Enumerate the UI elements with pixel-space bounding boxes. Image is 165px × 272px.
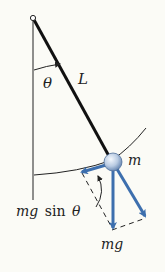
theta-angle-arc (34, 64, 60, 70)
dashed-component-line (112, 218, 146, 230)
pivot-icon (30, 15, 35, 20)
pendulum-diagram: θ L m mg mg sin θ (0, 0, 165, 272)
tangential-force-label: mg sin θ (16, 203, 81, 219)
angle-label: θ (43, 74, 52, 92)
dashed-component-line (82, 173, 112, 228)
angle-marker-arc (96, 176, 102, 207)
length-label: L (77, 70, 88, 88)
weight-label: mg (101, 236, 123, 252)
diagram-canvas: θ L m mg mg sin θ (0, 0, 165, 272)
mass-label: m (128, 152, 141, 168)
radial-component-vector (117, 169, 145, 216)
pendulum-bob (104, 153, 122, 171)
